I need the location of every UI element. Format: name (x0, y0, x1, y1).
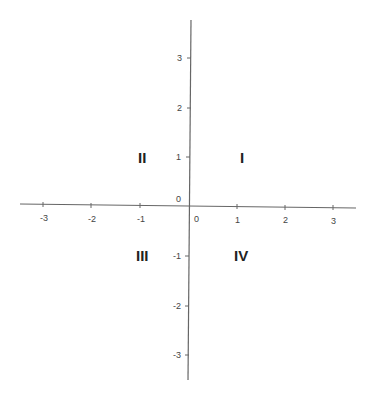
x-tick-label: 1 (235, 215, 240, 225)
y-tick-label: -1 (173, 251, 181, 261)
quadrant-label-iv: IV (234, 247, 248, 264)
quadrant-label-ii: II (138, 149, 146, 166)
y-tick-label: 3 (177, 53, 182, 63)
y-tick-label: 1 (176, 152, 181, 162)
y-tick-label-zero: 0 (176, 194, 181, 204)
y-tick-label: -3 (173, 350, 181, 360)
x-tick-label-zero: 0 (194, 214, 199, 224)
x-tick-label: -2 (88, 214, 96, 224)
quadrant-label-i: I (240, 149, 244, 166)
y-tick-label: 2 (177, 103, 182, 113)
x-tick-label: 3 (331, 216, 336, 226)
x-tick-label: -1 (137, 214, 145, 224)
x-tick-label: -3 (40, 213, 48, 223)
y-axis (188, 20, 191, 380)
coordinate-plane: -3 -2 -1 0 1 2 3 3 2 1 0 -1 -2 -3 II I I… (0, 0, 370, 393)
x-tick-label: 2 (283, 215, 288, 225)
x-axis (20, 204, 356, 208)
quadrant-label-iii: III (136, 247, 149, 264)
y-tick-label: -2 (173, 301, 181, 311)
